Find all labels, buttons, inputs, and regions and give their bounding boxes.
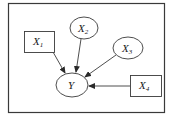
causal-diagram: X1 X2 X3 Y X4 [0,0,187,117]
node-y: Y [56,73,88,97]
edge-x3-to-y [85,55,116,77]
node-x3: X3 [113,37,143,59]
edge-x2-to-y [76,39,81,72]
node-x4: X4 [131,76,162,97]
node-x2: X2 [70,17,98,39]
node-x1: X1 [25,32,55,53]
edge-x1-to-y [53,52,65,73]
